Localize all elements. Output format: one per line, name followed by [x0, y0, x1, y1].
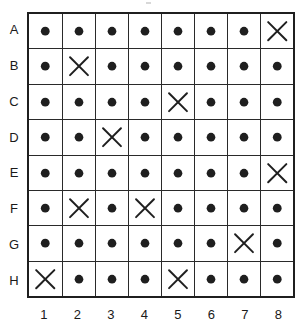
x-mark-icon [261, 14, 294, 48]
filled-circle-icon [129, 49, 161, 83]
grid-cell-B2[interactable] [62, 49, 95, 84]
grid-cell-F3[interactable] [95, 191, 128, 226]
grid-cell-B4[interactable] [128, 49, 161, 84]
filled-circle-icon [129, 156, 161, 190]
grid-cell-B5[interactable] [161, 49, 194, 84]
grid-cell-G3[interactable] [95, 226, 128, 261]
filled-circle-icon [96, 85, 128, 119]
grid-cell-D4[interactable] [128, 120, 161, 155]
grid-cell-D7[interactable] [227, 120, 260, 155]
grid-cell-C5[interactable] [161, 84, 194, 119]
grid-cell-G4[interactable] [128, 226, 161, 261]
grid-cell-B1[interactable] [29, 49, 62, 84]
grid-cell-H2[interactable] [62, 261, 95, 296]
filled-circle-icon [261, 226, 294, 260]
grid-table-body [29, 14, 293, 296]
grid-cell-E5[interactable] [161, 155, 194, 190]
row-label: B [4, 48, 24, 84]
grid-cell-A2[interactable] [62, 14, 95, 49]
grid-cell-H1[interactable] [29, 261, 62, 296]
filled-circle-icon [195, 226, 227, 260]
grid-cell-D5[interactable] [161, 120, 194, 155]
grid-cell-H8[interactable] [260, 261, 293, 296]
grid-cell-D6[interactable] [194, 120, 227, 155]
grid-cell-C2[interactable] [62, 84, 95, 119]
grid-row [29, 261, 293, 296]
grid-cell-G5[interactable] [161, 226, 194, 261]
filled-circle-icon [63, 120, 95, 154]
filled-circle-icon [29, 191, 62, 225]
grid-cell-A8[interactable] [260, 14, 293, 49]
filled-circle-icon [96, 262, 128, 296]
grid-cell-E4[interactable] [128, 155, 161, 190]
grid-cell-F1[interactable] [29, 191, 62, 226]
grid-cell-H5[interactable] [161, 261, 194, 296]
grid-row [29, 191, 293, 226]
grid-cell-C3[interactable] [95, 84, 128, 119]
filled-circle-icon [129, 226, 161, 260]
filled-circle-icon [29, 49, 62, 83]
grid-cell-E2[interactable] [62, 155, 95, 190]
filled-circle-icon [29, 85, 62, 119]
grid-cell-E1[interactable] [29, 155, 62, 190]
filled-circle-icon [29, 14, 62, 48]
grid-cell-C8[interactable] [260, 84, 293, 119]
filled-circle-icon [63, 262, 95, 296]
filled-circle-icon [261, 120, 294, 154]
column-label: 6 [195, 302, 229, 326]
grid-cell-E8[interactable] [260, 155, 293, 190]
grid-cell-F7[interactable] [227, 191, 260, 226]
filled-circle-icon [29, 156, 62, 190]
grid-cell-D8[interactable] [260, 120, 293, 155]
grid-cell-A7[interactable] [227, 14, 260, 49]
grid-container [27, 12, 295, 298]
grid-cell-A4[interactable] [128, 14, 161, 49]
grid-cell-F2[interactable] [62, 191, 95, 226]
filled-circle-icon [162, 14, 194, 48]
filled-circle-icon [228, 14, 260, 48]
grid-cell-G1[interactable] [29, 226, 62, 261]
grid-row [29, 155, 293, 190]
grid-cell-G7[interactable] [227, 226, 260, 261]
grid-cell-H4[interactable] [128, 261, 161, 296]
filled-circle-icon [261, 85, 294, 119]
grid-cell-C1[interactable] [29, 84, 62, 119]
column-label: 7 [228, 302, 262, 326]
grid-cell-G8[interactable] [260, 226, 293, 261]
grid-cell-D2[interactable] [62, 120, 95, 155]
grid-cell-C4[interactable] [128, 84, 161, 119]
grid-cell-B3[interactable] [95, 49, 128, 84]
grid-row [29, 14, 293, 49]
grid-cell-A6[interactable] [194, 14, 227, 49]
filled-circle-icon [162, 191, 194, 225]
filled-circle-icon [228, 156, 260, 190]
grid-cell-D1[interactable] [29, 120, 62, 155]
grid-cell-H7[interactable] [227, 261, 260, 296]
grid-cell-F6[interactable] [194, 191, 227, 226]
grid-cell-C7[interactable] [227, 84, 260, 119]
column-label: 1 [27, 302, 61, 326]
grid-cell-A3[interactable] [95, 14, 128, 49]
grid-cell-B7[interactable] [227, 49, 260, 84]
grid-cell-F5[interactable] [161, 191, 194, 226]
grid-cell-B8[interactable] [260, 49, 293, 84]
grid-cell-D3[interactable] [95, 120, 128, 155]
column-label: 3 [94, 302, 128, 326]
grid-cell-C6[interactable] [194, 84, 227, 119]
grid-cell-G2[interactable] [62, 226, 95, 261]
row-label: H [4, 262, 24, 298]
grid-cell-E6[interactable] [194, 155, 227, 190]
grid-cell-H6[interactable] [194, 261, 227, 296]
grid-cell-A1[interactable] [29, 14, 62, 49]
x-mark-icon [129, 191, 161, 225]
grid-cell-G6[interactable] [194, 226, 227, 261]
grid-cell-E3[interactable] [95, 155, 128, 190]
grid-cell-F8[interactable] [260, 191, 293, 226]
grid-cell-E7[interactable] [227, 155, 260, 190]
filled-circle-icon [96, 191, 128, 225]
grid-cell-A5[interactable] [161, 14, 194, 49]
grid-cell-B6[interactable] [194, 49, 227, 84]
grid-cell-F4[interactable] [128, 191, 161, 226]
row-label: E [4, 155, 24, 191]
grid-cell-H3[interactable] [95, 261, 128, 296]
